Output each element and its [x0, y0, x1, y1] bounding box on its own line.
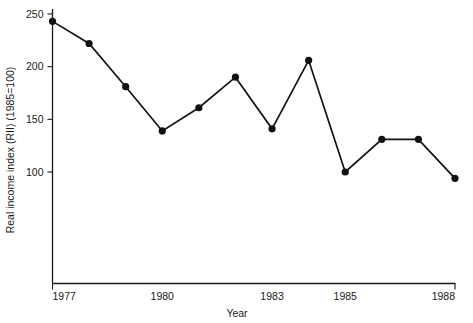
line-chart: 100150200250 19771980198319851988 Year R… [0, 0, 473, 323]
y-axis: 100150200250 [26, 8, 53, 284]
x-tick-group: 19771980198319851988 [53, 284, 456, 303]
data-point [451, 175, 458, 182]
x-tick-label: 1977 [53, 290, 77, 302]
data-point [268, 125, 275, 132]
x-axis: 19771980198319851988 [53, 284, 456, 303]
data-point [342, 168, 349, 175]
y-tick-label: 200 [26, 60, 44, 72]
y-tick-label: 150 [26, 113, 44, 125]
chart-container: 100150200250 19771980198319851988 Year R… [0, 0, 473, 323]
data-point [195, 104, 202, 111]
y-tick-group: 100150200250 [26, 8, 53, 178]
x-tick-label: 1985 [334, 290, 358, 302]
data-point-group [49, 18, 459, 182]
data-point [415, 136, 422, 143]
y-tick-label: 100 [26, 166, 44, 178]
x-tick-label: 1980 [151, 290, 175, 302]
plot-area [49, 18, 459, 182]
data-point [378, 136, 385, 143]
y-axis-title: Real income index (RII) (1985=100) [4, 67, 16, 234]
y-tick-label: 250 [26, 8, 44, 20]
data-point [122, 83, 129, 90]
x-axis-title: Year [226, 307, 248, 319]
x-tick-label: 1983 [260, 290, 284, 302]
data-point [232, 74, 239, 81]
data-point [159, 127, 166, 134]
data-point [305, 57, 312, 64]
data-series-line [53, 21, 456, 178]
x-tick-label: 1988 [432, 290, 456, 302]
data-point [85, 40, 92, 47]
